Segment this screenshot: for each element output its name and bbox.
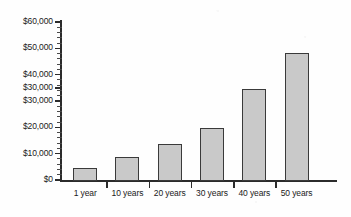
x-axis-tick-label: 50 years [275, 188, 317, 198]
bar [285, 53, 309, 181]
bar [115, 157, 139, 181]
bar-chart: $60,000$50,000$40,000$30,000$30,000$20,0… [0, 0, 351, 217]
y-axis-tick-label: $10,000 [1, 148, 53, 158]
y-axis-labels: $60,000$50,000$40,000$30,000$30,000$20,0… [0, 0, 53, 217]
y-axis-tick-label: $20,000 [1, 121, 53, 131]
y-axis-tick-label: $50,000 [1, 42, 53, 52]
x-axis-tick-label: 30 years [191, 188, 233, 198]
bar [200, 128, 224, 181]
y-axis-tick-label: $60,000 [1, 16, 53, 26]
bar [242, 89, 266, 181]
bar [158, 144, 182, 181]
bar [73, 168, 97, 181]
y-axis-tick-label: $40,000 [1, 69, 53, 79]
bars-layer [60, 20, 337, 181]
x-axis-tick-label: 10 years [106, 188, 148, 198]
x-axis-labels: 1 year10 years20 years30 years40 years50… [60, 188, 337, 204]
x-axis-tick-label: 20 years [149, 188, 191, 198]
y-axis-tick-label: $30,000 [1, 95, 53, 105]
y-axis-tick-label: $0 [1, 174, 53, 184]
x-axis-tick-label: 40 years [233, 188, 275, 198]
y-axis-tick-label: $30,000 [1, 82, 53, 92]
x-axis-tick-label: 1 year [64, 188, 106, 198]
